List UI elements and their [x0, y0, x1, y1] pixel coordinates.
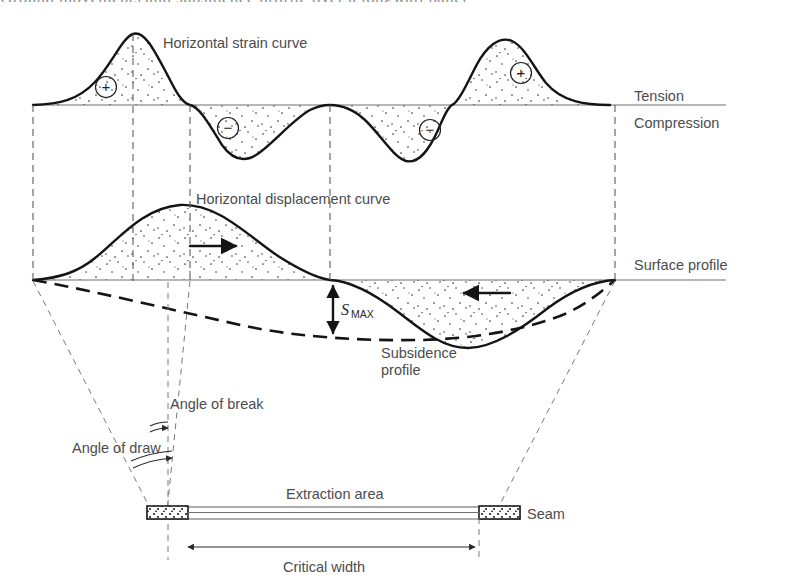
angle-of-break-label: Angle of break — [170, 396, 264, 412]
horizontal-displacement-curve-label: Horizontal displacement curve — [196, 191, 390, 207]
cropped-caption-fragment: Ground movements and subsidence profile … — [0, 0, 794, 2]
angle-of-draw-label: Angle of draw — [72, 440, 161, 456]
sign-plus-left: + — [102, 78, 111, 95]
critical-width-label: Critical width — [283, 559, 365, 575]
sign-minus-left: − — [224, 119, 233, 136]
subsidence-profile-label-line1: Subsidence — [381, 345, 457, 361]
surface-profile-label: Surface profile — [634, 257, 728, 273]
figure-root: Ground movements and subsidence profile … — [0, 0, 794, 587]
smax-symbol: S — [341, 301, 349, 318]
extraction-area-label: Extraction area — [286, 486, 384, 502]
subsidence-profile-label-line2: profile — [381, 362, 421, 378]
smax-subscript: MAX — [351, 308, 374, 320]
sign-plus-right: + — [517, 64, 526, 81]
sign-minus-right: − — [426, 121, 435, 138]
subsidence-diagram: + − − + Horizontal strain curve Tension … — [0, 0, 794, 587]
seam-label: Seam — [527, 506, 565, 522]
angle-of-break-arc — [150, 422, 168, 432]
seam-bar — [147, 506, 520, 519]
tension-label: Tension — [634, 88, 684, 104]
angle-of-draw-line-left — [33, 281, 152, 512]
compression-label: Compression — [634, 115, 719, 131]
horizontal-strain-curve-label: Horizontal strain curve — [163, 35, 307, 51]
